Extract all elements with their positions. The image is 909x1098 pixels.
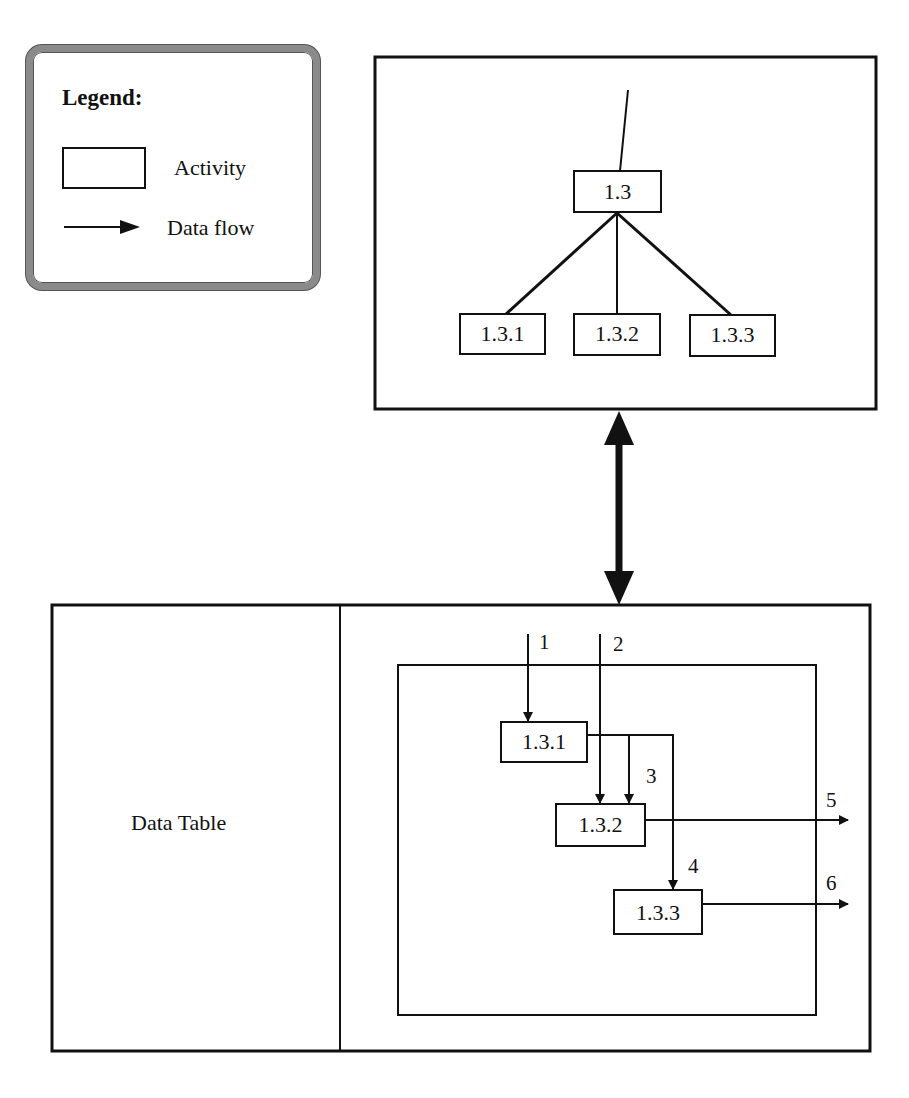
flow-5-label: 5 [826, 790, 837, 811]
diagram-canvas [0, 0, 909, 1098]
bidirectional-arrow-icon [604, 411, 634, 605]
node-1-3-1-label: 1.3.1 [460, 323, 545, 345]
flow-2-label: 2 [613, 634, 624, 655]
flow-1-label: 1 [539, 632, 550, 653]
data-table-label: Data Table [131, 812, 226, 834]
tree-edge-1-3-3 [617, 213, 731, 315]
node-1-3-label: 1.3 [574, 181, 661, 203]
activity-1-3-1-label: 1.3.1 [501, 731, 587, 753]
activity-1-3-2-label: 1.3.2 [556, 814, 645, 836]
flow-4-label: 4 [688, 856, 699, 877]
activity-1-3-3-label: 1.3.3 [614, 902, 702, 924]
flow-6-label: 6 [826, 873, 837, 894]
node-1-3-3-label: 1.3.3 [690, 324, 775, 346]
legend-arrow-icon [64, 220, 140, 234]
flow-3-label: 3 [646, 766, 657, 787]
node-1-3-2-label: 1.3.2 [574, 323, 660, 345]
parent-connector-line [620, 90, 628, 171]
tree-edge-1-3-1 [506, 213, 617, 314]
